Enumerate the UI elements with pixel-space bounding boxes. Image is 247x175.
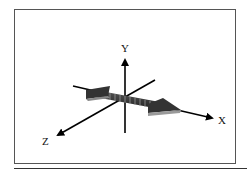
axes-diagram: Y X Z (0, 0, 247, 175)
x-axis-label: X (218, 114, 226, 126)
y-axis-label: Y (121, 42, 129, 54)
bottom-rule (14, 168, 247, 169)
z-axis-label: Z (42, 135, 49, 147)
